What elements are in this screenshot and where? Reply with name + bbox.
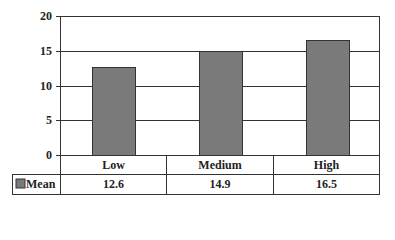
category-label-medium: Medium [167, 156, 273, 175]
bar-medium [200, 52, 243, 156]
legend-label-mean: Mean [26, 175, 60, 194]
bar-high [307, 41, 350, 156]
value-medium: 14.9 [167, 175, 273, 194]
category-label-low: Low [61, 156, 166, 175]
legend-swatch [16, 179, 25, 188]
bar-low [93, 68, 136, 156]
value-high: 16.5 [274, 175, 379, 194]
value-low: 12.6 [61, 175, 166, 194]
category-label-high: High [274, 156, 379, 175]
